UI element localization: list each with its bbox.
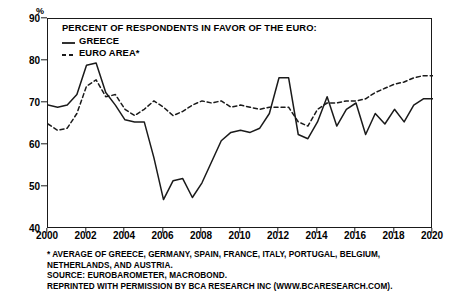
legend-label-greece: GREECE xyxy=(79,35,119,48)
x-tick-2008 xyxy=(200,228,201,233)
y-tick-label-70: 70 xyxy=(29,97,40,108)
legend-item-greece: GREECE xyxy=(62,36,317,48)
footnotes: * AVERAGE OF GREECE, GERMANY, SPAIN, FRA… xyxy=(47,250,463,292)
x-tick-2016 xyxy=(354,228,355,233)
legend-swatch-dashed-icon xyxy=(62,50,75,58)
line-euro-area xyxy=(48,76,433,131)
footnote-source: SOURCE: EUROBAROMETER, MACROBOND. xyxy=(47,271,463,282)
footnote-reprint: REPRINTED WITH PERMISSION BY BCA RESEARC… xyxy=(47,282,463,293)
line-greece xyxy=(48,63,433,200)
chart-container: % 405060708090 2000200220042006200820102… xyxy=(0,0,464,294)
x-tick-2002 xyxy=(85,228,86,233)
legend-label-euro-area: EURO AREA* xyxy=(79,47,140,60)
footnote-average: * AVERAGE OF GREECE, GERMANY, SPAIN, FRA… xyxy=(47,250,463,261)
footnote-average-cont: NETHERLANDS, AND AUSTRIA. xyxy=(47,261,463,272)
legend: PERCENT OF RESPONDENTS IN FAVOR OF THE E… xyxy=(62,22,317,60)
x-tick-2004 xyxy=(123,228,124,233)
x-tick-2020 xyxy=(431,228,432,233)
legend-swatch-solid-icon xyxy=(62,38,75,46)
y-tick-label-60: 60 xyxy=(29,139,40,150)
x-tick-2014 xyxy=(316,228,317,233)
y-tick-label-90: 90 xyxy=(29,13,40,24)
x-tick-2010 xyxy=(239,228,240,233)
chart-title: PERCENT OF RESPONDENTS IN FAVOR OF THE E… xyxy=(62,22,317,35)
x-tick-2018 xyxy=(393,228,394,233)
x-tick-2006 xyxy=(162,228,163,233)
y-axis-labels: 405060708090 xyxy=(0,0,47,248)
x-axis-labels: 2000200220042006200820102012201420162018… xyxy=(0,230,464,246)
x-tick-2012 xyxy=(277,228,278,233)
x-tick-2000 xyxy=(46,228,47,233)
y-tick-label-50: 50 xyxy=(29,181,40,192)
y-tick-label-80: 80 xyxy=(29,55,40,66)
legend-item-euro-area: EURO AREA* xyxy=(62,48,317,60)
